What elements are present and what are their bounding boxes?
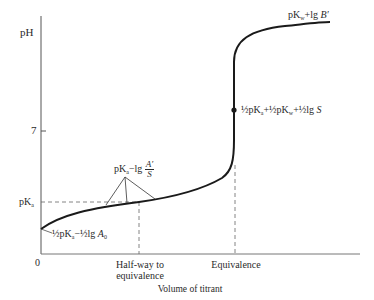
buffer-leader-line-1: [106, 177, 125, 205]
x-axis-label: Volume of titrant: [140, 285, 240, 295]
titration-curve-diagram: pH 7 pKa 0 ½pKa−½lg A0 pKa−lg A′S ½pKa+½…: [0, 0, 374, 300]
buffer-region-annotation: pKa−lg A′S: [114, 160, 154, 179]
start-leader-line: [41, 229, 52, 233]
equivalence-point-dot: [231, 107, 236, 112]
y-tick-label-pka: pKa: [19, 197, 34, 208]
buffer-leader-line-2: [125, 177, 127, 203]
x-tick-label-half-way: Half-way to equivalence: [104, 260, 176, 281]
end-region-annotation: pKw+lg B′: [288, 10, 329, 21]
start-point-annotation: ½pKa−½lg A0: [52, 229, 107, 240]
equivalence-point-annotation: ½pKa+½pKw+½lg S: [241, 105, 322, 116]
origin-label: 0: [35, 258, 40, 268]
x-tick-label-equivalence: Equivalence: [205, 260, 267, 270]
diagram-canvas: [0, 0, 374, 300]
y-tick-label-7: 7: [31, 125, 37, 136]
titration-curve: [41, 22, 330, 229]
buffer-leader-line-3: [125, 177, 155, 199]
y-axis-label: pH: [20, 27, 33, 38]
